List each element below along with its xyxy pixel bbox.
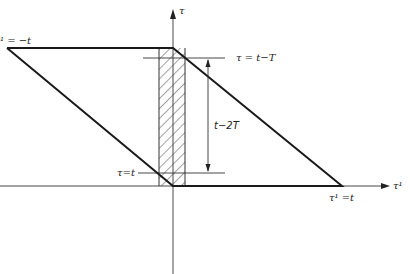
horizontal-axis-label: τ¹ [393, 181, 403, 191]
left-vertex-label: ¹ = −t [0, 36, 31, 46]
vertical-axis-label: τ [179, 6, 185, 16]
vertical-axis-arrow-icon [170, 9, 176, 19]
diagram-canvas: τ τ¹ ¹ = −t τ = t−T t−2T τ=t τ¹ =t [0, 0, 410, 274]
dimension-arrow-down-icon [206, 164, 211, 172]
dimension-label: t−2T [214, 121, 239, 131]
hatched-strip [159, 48, 185, 186]
upper-line-label: τ = t−T [236, 53, 275, 63]
dimension-arrow-up-icon [206, 59, 211, 67]
horizontal-axis-arrow-icon [381, 183, 390, 189]
right-vertex-label: τ¹ =t [329, 193, 354, 203]
integration-region-diagram [0, 0, 410, 274]
lower-line-label: τ=t [117, 168, 135, 178]
